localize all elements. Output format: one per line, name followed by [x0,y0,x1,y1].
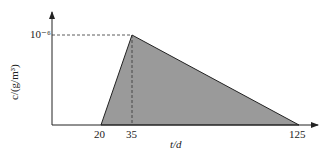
y-tick-label: 10⁻⁶ [30,28,51,41]
area-fill [101,35,299,125]
x-tick-20: 20 [94,128,105,140]
chart-canvas [0,0,336,155]
x-axis-label: t/d [170,138,182,150]
y-axis-label: c/(g/m³) [8,64,20,100]
x-tick-35: 35 [126,128,137,140]
x-tick-125: 125 [289,128,306,140]
